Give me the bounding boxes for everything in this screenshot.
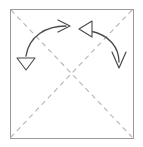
fold-diagram-canvas: Square with diagonal fold lines and two … [0,0,143,147]
origami-fold-diagram: Square with diagonal fold lines and two … [0,0,143,147]
paper-square [10,9,133,138]
